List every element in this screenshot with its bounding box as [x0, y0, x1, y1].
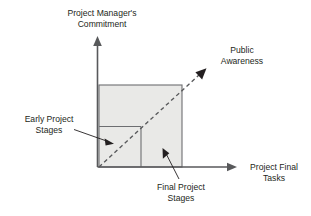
public-awareness-arrowhead	[195, 68, 206, 79]
x-axis-arrowhead	[227, 163, 237, 172]
y-axis-label-line2: Commitment	[78, 19, 127, 29]
y-axis-label-line1: Project Manager's	[68, 8, 137, 18]
y-axis-arrowhead	[93, 36, 102, 46]
final-stages-label-line2: Stages	[168, 193, 195, 203]
diagram-figure: Project Manager's Commitment Project Fin…	[0, 0, 311, 216]
public-awareness-label-line2: Awareness	[221, 56, 263, 66]
x-axis-label-line2: Tasks	[263, 173, 285, 183]
x-axis-label-line1: Project Final	[250, 162, 298, 172]
final-stages-label-line1: Final Project	[157, 182, 205, 192]
public-awareness-label-line1: Public	[230, 45, 254, 55]
diagram-canvas: Project Manager's Commitment Project Fin…	[0, 0, 311, 216]
early-stages-label-line1: Early Project	[25, 114, 74, 124]
early-stages-label-line2: Stages	[36, 125, 63, 135]
